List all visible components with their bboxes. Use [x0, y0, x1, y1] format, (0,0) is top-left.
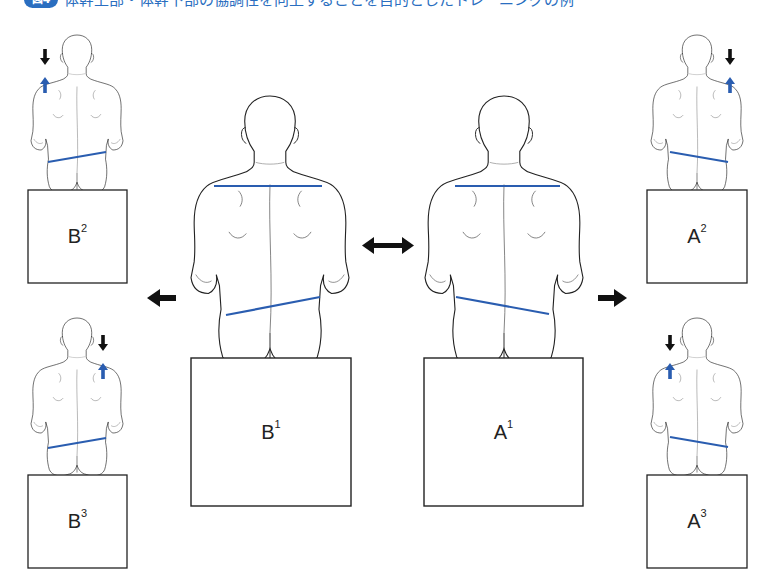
label-B1: B1 — [191, 421, 351, 444]
label-sup: 1 — [507, 418, 513, 430]
label-sup: 2 — [701, 222, 707, 234]
label-sup: 1 — [275, 418, 281, 430]
label-letter: B — [261, 421, 274, 443]
label-A1: A1 — [424, 421, 583, 444]
figure-A1 — [424, 96, 583, 506]
label-A2: A2 — [647, 225, 747, 248]
label-letter: A — [687, 225, 700, 247]
arrow-right-icon — [598, 289, 627, 307]
label-sup: 2 — [81, 222, 87, 234]
label-B2: B2 — [28, 225, 127, 248]
diagram-canvas — [0, 0, 777, 585]
double-arrow-icon — [362, 237, 414, 254]
label-B3: B3 — [28, 510, 127, 533]
label-letter: A — [494, 421, 507, 443]
label-letter: B — [68, 225, 81, 247]
label-sup: 3 — [81, 507, 87, 519]
label-letter: A — [687, 510, 700, 532]
label-A3: A3 — [647, 510, 747, 533]
figure-B1 — [191, 96, 351, 506]
arrow-left-icon — [147, 289, 176, 307]
label-sup: 3 — [701, 507, 707, 519]
label-letter: B — [68, 510, 81, 532]
